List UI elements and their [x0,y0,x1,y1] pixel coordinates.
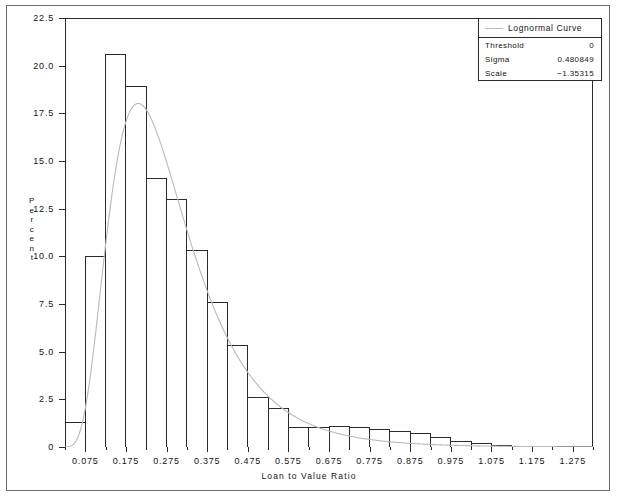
histogram-bar [65,422,85,447]
y-tick-mark [59,352,65,353]
x-tick-mark [410,447,411,452]
legend-row-value: −1.35315 [557,69,594,78]
histogram-bar [268,409,288,447]
legend-row-value: 0.480849 [557,55,594,64]
x-tick-mark [491,447,492,452]
legend-row-key: Threshold [485,41,524,50]
x-tick-mark [329,447,330,452]
histogram-bar [146,178,166,447]
x-tick-mark [573,447,574,452]
plot-canvas [65,18,593,447]
legend-row: Scale−1.35315 [479,66,601,80]
y-axis-title: Percent [26,196,38,263]
histogram-bar [106,54,126,447]
legend-title: Lognormal Curve [508,23,582,33]
x-tick-minor-mark [106,447,107,450]
y-axis-title-char: e [26,234,38,244]
y-tick-mark [59,66,65,67]
y-tick-mark [59,256,65,257]
y-tick-mark [59,304,65,305]
y-axis-title-char: e [26,206,38,216]
histogram-chart: 02.55.07.510.012.515.017.520.022.5 0.075… [0,0,618,500]
x-tick-label: 0.875 [397,456,424,466]
x-tick-label: 0.375 [194,456,221,466]
histogram-bar [227,346,247,447]
y-axis-title-char: n [26,244,38,254]
histogram-bar [248,397,268,447]
histogram-bar [329,426,349,447]
x-tick-mark [532,447,533,452]
x-tick-label: 0.675 [316,456,343,466]
histogram-bar [187,251,207,447]
x-tick-mark [451,447,452,452]
histogram-bar [370,430,390,447]
y-axis-title-char: c [26,225,38,235]
x-tick-minor-mark [65,447,66,450]
x-tick-label: 0.975 [438,456,465,466]
x-tick-label: 0.075 [72,456,99,466]
legend-title-row: Lognormal Curve [479,19,601,38]
y-tick-label: 17.5 [8,108,54,118]
histogram-bar [207,302,227,447]
histogram-bar [85,256,105,447]
y-tick-label: 5.0 [8,347,54,357]
histogram-bar [390,432,410,447]
histogram-bar [309,428,329,447]
y-tick-mark [59,161,65,162]
x-tick-mark [167,447,168,452]
legend-row-key: Scale [485,69,507,78]
x-tick-minor-mark [552,447,553,450]
legend-row: Threshold0 [479,38,601,52]
x-tick-minor-mark [390,447,391,450]
x-tick-mark [288,447,289,452]
x-tick-minor-mark [349,447,350,450]
y-tick-label: 20.0 [8,61,54,71]
x-tick-mark [370,447,371,452]
x-tick-label: 1.275 [559,456,586,466]
x-tick-label: 0.775 [356,456,383,466]
x-tick-label: 0.175 [113,456,140,466]
x-tick-minor-mark [512,447,513,450]
y-tick-label: 22.5 [8,13,54,23]
histogram-bar [167,199,187,447]
x-tick-minor-mark [227,447,228,450]
x-axis-title: Loan to Value Ratio [0,471,618,481]
histogram-bar [288,428,308,447]
legend-parameter-rows: Threshold0Sigma0.480849Scale−1.35315 [479,38,601,80]
y-tick-mark [59,209,65,210]
y-axis-title-char: r [26,215,38,225]
x-tick-mark [126,447,127,452]
x-tick-label: 0.575 [275,456,302,466]
x-tick-label: 0.475 [235,456,262,466]
y-tick-mark [59,113,65,114]
y-tick-label: 15.0 [8,156,54,166]
histogram-bar [410,434,430,447]
histogram-bar [126,87,146,447]
y-axis-title-char: P [26,196,38,206]
x-tick-label: 1.075 [478,456,505,466]
legend-row-key: Sigma [485,55,510,64]
y-axis-title-char: t [26,253,38,263]
x-tick-mark [85,447,86,452]
x-tick-mark [207,447,208,452]
x-tick-minor-mark [146,447,147,450]
x-tick-minor-mark [431,447,432,450]
legend: Lognormal Curve Threshold0Sigma0.480849S… [478,18,602,81]
x-tick-mark [248,447,249,452]
x-tick-minor-mark [268,447,269,450]
histogram-bars [65,54,552,447]
x-tick-minor-mark [309,447,310,450]
x-tick-minor-mark [471,447,472,450]
y-tick-label: 0 [8,442,54,452]
x-tick-minor-mark [593,447,594,450]
y-tick-mark [59,18,65,19]
x-tick-label: 0.275 [153,456,180,466]
y-tick-mark [59,399,65,400]
legend-line-swatch-icon [485,28,503,29]
y-tick-label: 7.5 [8,299,54,309]
x-tick-label: 1.175 [519,456,546,466]
legend-row: Sigma0.480849 [479,52,601,66]
x-tick-minor-mark [187,447,188,450]
legend-row-value: 0 [589,41,594,50]
y-tick-label: 2.5 [8,394,54,404]
